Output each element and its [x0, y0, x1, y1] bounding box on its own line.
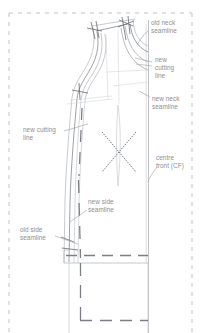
dart-and-cross-marks	[102, 105, 136, 186]
construction-chest-line-2	[70, 96, 112, 100]
notch-shoulder-right-a	[118, 21, 134, 27]
leader-lines	[55, 31, 157, 244]
armhole-seam-trace-2	[85, 34, 106, 101]
leader-centre-front	[148, 167, 157, 182]
old-bodice-outline	[64, 19, 148, 263]
notch-shoulder-left-a	[87, 28, 102, 31]
notch-waist-b	[61, 237, 74, 242]
leader-new-cutting-left	[64, 124, 88, 131]
notch-underarm-b	[79, 83, 80, 100]
leader-new-cutting-right	[135, 58, 152, 62]
notch-shoulder-right-d	[119, 20, 133, 26]
construction-bust-line	[113, 82, 148, 86]
new-cutting-neck	[130, 24, 148, 52]
paper-frame	[9, 13, 192, 333]
dashed-seam-marks	[66, 108, 148, 321]
vertical-dart	[117, 105, 121, 186]
pattern-drawing	[0, 0, 201, 333]
notch-underarm-a	[72, 90, 88, 93]
construction-bust-line-2	[106, 70, 148, 72]
notch-shoulder-left-b	[91, 22, 95, 39]
new-cutting-lines	[69, 24, 148, 262]
old-armhole-curve	[72, 27, 94, 98]
construction-vertical-2	[118, 30, 119, 104]
new-cutting-armhole	[77, 32, 98, 99]
pattern-diagram-page: old neck seamline new cutting line new n…	[0, 0, 201, 333]
construction-vertical	[106, 35, 108, 100]
leader-new-cutting-right-b	[136, 64, 152, 66]
